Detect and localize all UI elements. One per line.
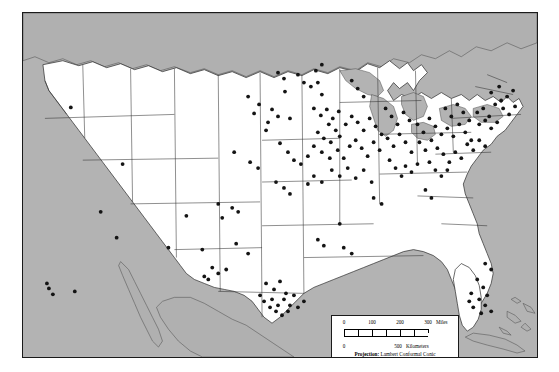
- data-point: [439, 132, 443, 136]
- data-point: [471, 305, 475, 309]
- data-point: [402, 111, 406, 115]
- km-label-500: 500: [394, 343, 402, 349]
- data-point: [234, 242, 238, 246]
- data-point: [350, 252, 354, 256]
- data-point: [299, 162, 303, 166]
- data-point: [337, 110, 341, 114]
- data-point: [374, 124, 378, 128]
- data-point: [453, 150, 457, 154]
- data-point: [513, 105, 517, 109]
- data-point: [400, 174, 404, 178]
- data-point: [443, 107, 447, 111]
- data-point: [257, 103, 261, 107]
- data-point: [316, 130, 320, 134]
- data-point: [447, 160, 451, 164]
- data-point: [322, 136, 326, 140]
- data-point: [495, 120, 499, 124]
- data-point: [424, 188, 428, 192]
- data-point: [354, 138, 358, 142]
- data-point: [288, 116, 292, 120]
- data-point: [246, 252, 250, 256]
- data-point: [410, 170, 414, 174]
- data-point: [280, 313, 284, 317]
- data-point: [346, 166, 350, 170]
- data-point: [331, 116, 335, 120]
- data-point: [356, 87, 360, 91]
- miles-unit-label: Miles: [436, 319, 448, 325]
- data-point: [388, 158, 392, 162]
- data-point: [435, 146, 439, 150]
- data-point: [451, 134, 455, 138]
- projection-label: Projection:: [354, 351, 379, 357]
- data-point: [459, 156, 463, 160]
- data-point: [216, 272, 220, 276]
- projection-line: Projection: Lambert Conformal Conic: [336, 351, 454, 358]
- km-tick-a: [358, 333, 359, 337]
- data-point: [276, 71, 280, 75]
- data-point: [360, 146, 364, 150]
- data-point: [449, 115, 453, 119]
- data-point: [475, 278, 479, 282]
- data-point: [416, 122, 420, 126]
- data-point: [439, 174, 443, 178]
- map-legend: 0 100 200 300 Miles 0 500: [331, 315, 459, 358]
- data-point: [336, 148, 340, 152]
- data-point: [320, 150, 324, 154]
- data-point: [268, 305, 272, 309]
- data-point: [386, 136, 390, 140]
- data-point: [362, 168, 366, 172]
- km-tick-b: [372, 333, 373, 337]
- data-point: [378, 148, 382, 152]
- data-point: [224, 268, 228, 272]
- data-point: [312, 144, 316, 148]
- data-point: [202, 275, 206, 279]
- data-point: [461, 111, 465, 115]
- data-point: [487, 115, 491, 119]
- data-point: [276, 303, 280, 307]
- data-point: [206, 278, 210, 282]
- data-point: [312, 174, 316, 178]
- data-point: [262, 299, 266, 303]
- data-point: [441, 152, 445, 156]
- miles-tick-300: [428, 329, 429, 333]
- data-point: [284, 291, 288, 295]
- data-point: [99, 210, 103, 214]
- data-point: [282, 77, 286, 81]
- data-point: [200, 248, 204, 252]
- data-point: [396, 122, 400, 126]
- data-point: [282, 186, 286, 190]
- data-point: [288, 303, 292, 307]
- data-point: [493, 103, 497, 107]
- data-point: [278, 141, 282, 145]
- data-point: [471, 148, 475, 152]
- data-point: [278, 280, 282, 284]
- data-point: [483, 303, 487, 307]
- km-tick-e: [414, 333, 415, 337]
- km-scale-bar: [336, 336, 454, 342]
- data-point: [232, 150, 236, 154]
- data-point: [306, 182, 310, 186]
- data-point: [479, 311, 483, 315]
- data-point: [394, 166, 398, 170]
- cuba-landmass: [465, 333, 525, 353]
- data-point: [266, 120, 270, 124]
- data-point: [354, 176, 358, 180]
- data-point: [350, 115, 354, 119]
- data-point: [445, 168, 449, 172]
- data-point: [362, 95, 366, 99]
- data-point: [380, 202, 384, 206]
- data-point: [428, 160, 432, 164]
- data-point: [121, 162, 125, 166]
- data-point: [362, 128, 366, 132]
- data-point: [276, 115, 280, 119]
- km-tick-d: [400, 333, 401, 337]
- km-label-0: 0: [343, 343, 346, 349]
- km-unit-label: Kilometers: [406, 343, 429, 349]
- data-point: [422, 130, 426, 134]
- data-point: [338, 134, 342, 138]
- data-point: [408, 118, 412, 122]
- projection-name: Lambert Conformal Conic: [380, 351, 435, 357]
- data-point: [270, 108, 274, 112]
- data-point: [392, 144, 396, 148]
- data-point: [370, 180, 374, 184]
